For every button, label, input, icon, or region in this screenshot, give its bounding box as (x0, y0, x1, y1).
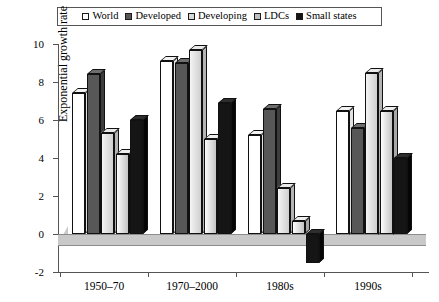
legend-item-developed[interactable]: Developed (125, 11, 180, 22)
x-tick-label: 1980s (266, 281, 293, 293)
bar-face (394, 158, 407, 234)
bar-face (336, 111, 349, 235)
bar-face (101, 133, 114, 234)
bar-side-face (319, 229, 324, 262)
bar-group-1970-2000 (160, 44, 248, 272)
legend-swatch-developed-icon (125, 13, 132, 20)
legend-swatch-developing-icon (188, 13, 195, 20)
y-tick-label: -2 (35, 267, 44, 278)
legend-item-small-states[interactable]: Small states (296, 11, 356, 22)
legend-swatch-small-states-icon (296, 13, 303, 20)
bar-face (380, 111, 393, 235)
bar-face (365, 73, 378, 235)
y-tick-label: 4 (39, 153, 45, 164)
x-tick-label: 1950–70 (84, 281, 124, 293)
bar-face (116, 154, 129, 234)
bar-face (175, 63, 188, 234)
bar-face (160, 61, 173, 234)
x-tick (324, 272, 325, 277)
bar-side-face (407, 153, 412, 234)
bar-face (87, 74, 100, 234)
bar-face (277, 188, 290, 234)
exponential-growth-rate-bar-chart: WorldDevelopedDevelopingLDCsSmall states… (0, 0, 439, 302)
bar-face (263, 109, 276, 234)
x-axis-line (58, 272, 429, 273)
bar-face (130, 120, 143, 234)
bar-face (189, 50, 202, 234)
bar-face (306, 234, 319, 263)
x-tick-label: 1970–2000 (166, 281, 218, 293)
bar-face (351, 128, 364, 234)
bar-face (204, 139, 217, 234)
bar-face (292, 221, 305, 234)
legend-swatch-world-icon (82, 13, 89, 20)
bar-face (248, 135, 261, 234)
legend-label: Developed (135, 11, 180, 22)
legend-label: Small states (306, 11, 356, 22)
legend-item-ldcs[interactable]: LDCs (254, 11, 289, 22)
y-tick-label: 6 (39, 115, 45, 126)
legend-label: Developing (198, 11, 247, 22)
x-tick-label: 1990s (354, 281, 381, 293)
bar-group-1950-70 (72, 44, 160, 272)
y-tick-label: 0 (39, 229, 45, 240)
legend-item-developing[interactable]: Developing (188, 11, 247, 22)
chart-legend: WorldDevelopedDevelopingLDCsSmall states (57, 7, 382, 26)
bar-groups (58, 44, 426, 272)
x-tick (148, 272, 149, 277)
bar-face (72, 93, 85, 234)
y-tick-label: 8 (39, 77, 45, 88)
bar-face (218, 103, 231, 234)
bar-side-face (143, 115, 148, 234)
legend-swatch-ldcs-icon (254, 13, 261, 20)
bar-group-1980s (248, 44, 336, 272)
x-tick (60, 272, 61, 277)
legend-label: LDCs (264, 11, 289, 22)
legend-item-world[interactable]: World (82, 11, 118, 22)
bar-side-face (231, 98, 236, 234)
x-tick (412, 272, 413, 277)
x-tick (236, 272, 237, 277)
plot-area: Exponential growth rate -20246810 (58, 44, 426, 272)
y-tick-label: 10 (33, 39, 44, 50)
legend-label: World (92, 11, 118, 22)
bar-group-1990s (336, 44, 424, 272)
y-tick-label: 2 (39, 191, 45, 202)
